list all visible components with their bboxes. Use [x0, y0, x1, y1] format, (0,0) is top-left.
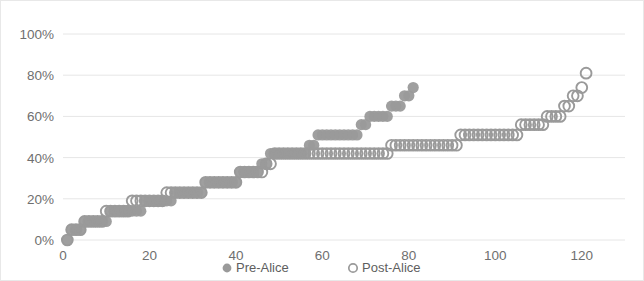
- scatter-chart: 0%20%40%60%80%100% 020406080100120 Pre-A…: [1, 1, 644, 281]
- legend-marker-post-alice: [349, 264, 357, 272]
- data-point: [395, 101, 406, 112]
- legend-marker-pre-alice: [223, 264, 232, 273]
- y-tick-label: 0%: [34, 233, 54, 248]
- y-tick-label: 60%: [27, 109, 54, 124]
- y-tick-label: 20%: [27, 192, 54, 207]
- data-point: [135, 206, 146, 217]
- x-tick-label: 0: [59, 248, 67, 263]
- legend-label: Pre-Alice: [236, 260, 289, 275]
- x-tick-label: 100: [484, 248, 507, 263]
- y-tick-label: 40%: [27, 151, 54, 166]
- y-axis-tick-labels: 0%20%40%60%80%100%: [19, 27, 54, 248]
- chart-container: 0%20%40%60%80%100% 020406080100120 Pre-A…: [0, 0, 644, 281]
- x-tick-label: 20: [142, 248, 157, 263]
- data-point: [351, 129, 362, 140]
- x-tick-label: 60: [315, 248, 330, 263]
- legend-label: Post-Alice: [362, 260, 421, 275]
- x-axis-tick-labels: 020406080100120: [59, 248, 593, 263]
- x-tick-label: 120: [571, 248, 594, 263]
- y-tick-label: 80%: [27, 68, 54, 83]
- data-point: [382, 111, 393, 122]
- data-point: [408, 82, 419, 93]
- y-tick-label: 100%: [19, 27, 54, 42]
